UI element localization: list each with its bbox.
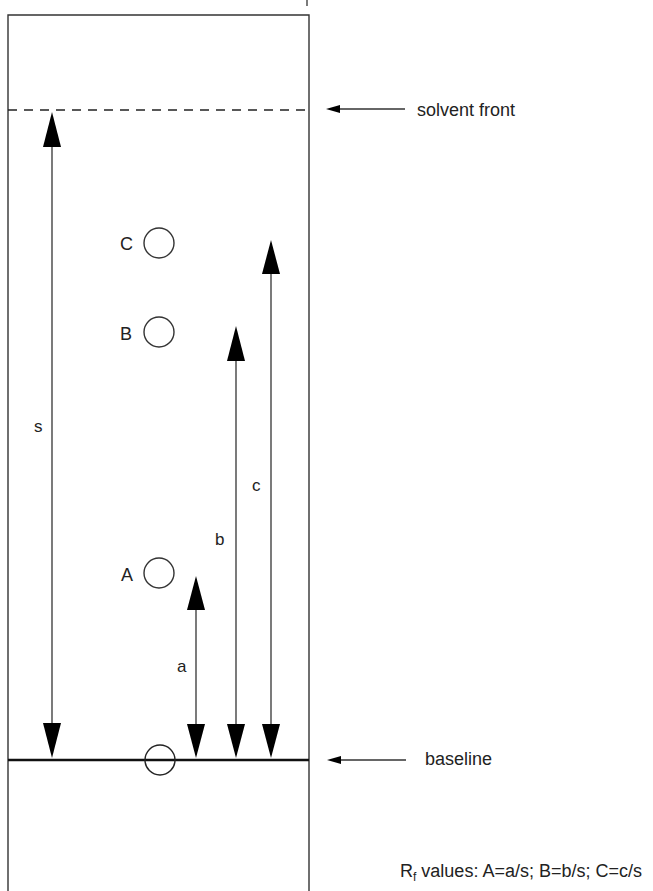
- solvent-front-callout: solvent front: [326, 100, 515, 120]
- spot-label: B: [120, 324, 132, 344]
- spot-c: C: [120, 228, 174, 258]
- baseline-callout: baseline: [327, 749, 492, 769]
- spot-circle: [144, 317, 174, 347]
- spot-b: B: [120, 317, 174, 347]
- arrow-up-icon: [262, 240, 280, 274]
- distance-arrow-b: b: [215, 326, 245, 758]
- spot-circle: [144, 558, 174, 588]
- arrow-up-icon: [227, 326, 245, 361]
- distance-arrow-a: a: [177, 576, 205, 758]
- arrow-down-icon: [43, 723, 61, 758]
- spot-circle: [144, 228, 174, 258]
- solvent-front-label: solvent front: [417, 100, 515, 120]
- distance-label: a: [177, 657, 187, 676]
- arrow-down-icon: [262, 724, 280, 758]
- spot-a: A: [121, 558, 174, 588]
- arrow-down-icon: [187, 724, 205, 758]
- distance-label: s: [34, 417, 43, 436]
- arrow-left-icon: [327, 756, 341, 764]
- arrow-left-icon: [326, 105, 340, 113]
- baseline-label: baseline: [425, 749, 492, 769]
- arrow-down-icon: [227, 724, 245, 758]
- spot-label: A: [121, 565, 133, 585]
- distance-label: b: [215, 530, 224, 549]
- arrow-up-icon: [43, 112, 61, 147]
- spot-label: C: [120, 234, 133, 254]
- tlc-diagram: C B A s a b c solvent front: [0, 0, 653, 891]
- rf-formula-text: values: A=a/s; B=b/s; C=c/s: [416, 861, 642, 881]
- distance-label: c: [252, 476, 261, 495]
- distance-arrow-s: s: [34, 112, 61, 758]
- rf-formula: Rf values: A=a/s; B=b/s; C=c/s: [400, 861, 642, 884]
- arrow-up-icon: [187, 576, 205, 610]
- rf-prefix: R: [400, 861, 413, 881]
- distance-arrow-c: c: [252, 240, 280, 758]
